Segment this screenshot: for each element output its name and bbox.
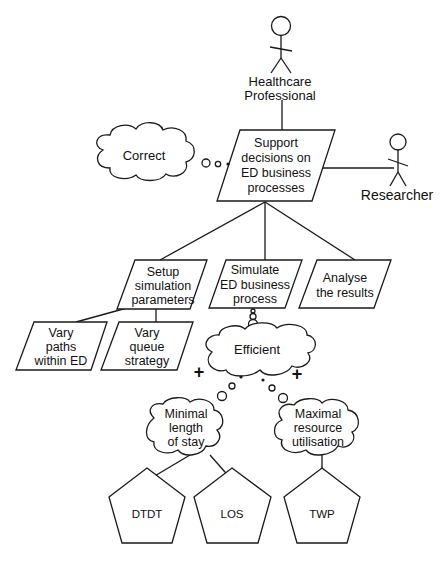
bubble-icon xyxy=(250,314,256,320)
softgoal-label: Efficient xyxy=(234,342,280,357)
goal-vary-paths[interactable]: Vary paths within ED xyxy=(16,322,107,370)
goal-label-line: Simulate xyxy=(231,263,280,277)
goal-label-line: Support xyxy=(254,136,298,150)
bubble-icon xyxy=(251,309,255,313)
actor-leg-left-icon xyxy=(271,58,281,73)
goal-label-line: processes xyxy=(248,181,305,195)
indicator-twp[interactable]: TWP xyxy=(284,468,360,543)
goal-vary-queue[interactable]: Vary queue strategy xyxy=(101,322,193,370)
bubble-icon xyxy=(218,392,227,401)
bubble-icon xyxy=(202,159,210,167)
pentagon-shape xyxy=(284,468,360,543)
bubble-dot-icon xyxy=(239,375,242,378)
goal-label-line: the results xyxy=(316,286,374,300)
softgoal-label-line: resource xyxy=(294,421,343,435)
indicator-dtdt[interactable]: DTDT xyxy=(109,468,185,543)
actor-label: Researcher xyxy=(361,187,434,203)
goal-label-line: ED business xyxy=(220,278,290,292)
pentagon-shape xyxy=(109,468,185,543)
indicator-label: TWP xyxy=(309,508,335,520)
softgoal-maximal-utilisation[interactable]: Maximal resource utilisation xyxy=(275,399,359,455)
indicator-los[interactable]: LOS xyxy=(194,468,271,543)
goal-analyse[interactable]: Analyse the results xyxy=(299,260,391,308)
actor-leg-right-icon xyxy=(398,172,406,186)
goal-label-line: Vary xyxy=(49,326,75,340)
actor-label-line2: Professional xyxy=(244,88,316,103)
softgoal-label-line: length xyxy=(169,421,203,435)
link-main-setup xyxy=(160,202,265,260)
contribution-plus-right: + xyxy=(292,364,303,384)
goal-label-line: parameters xyxy=(131,293,194,307)
efficient-children-bubbles xyxy=(218,383,288,403)
softgoal-label: Correct xyxy=(123,148,166,163)
actor-leg-left-icon xyxy=(390,172,398,186)
softgoal-label-line: Minimal xyxy=(164,407,207,421)
actor-label-line1: Healthcare xyxy=(249,74,312,89)
softgoal-label-line: utilisation xyxy=(292,435,344,449)
bubble-dot-icon xyxy=(261,378,264,381)
goal-label-line: decisions on xyxy=(241,151,311,165)
bubble-dot-icon xyxy=(226,162,229,165)
goal-label-line: simulation xyxy=(135,279,191,293)
goal-label-line: Setup xyxy=(147,265,180,279)
softgoal-label-line: of stay xyxy=(168,435,206,449)
bubble-icon xyxy=(215,161,220,166)
actor-healthcare-professional[interactable]: Healthcare Professional xyxy=(244,17,316,104)
goal-setup[interactable]: Setup simulation parameters xyxy=(117,260,207,309)
goal-label-line: strategy xyxy=(125,354,170,368)
indicator-label: LOS xyxy=(220,508,243,520)
goal-label-line: process xyxy=(233,292,277,306)
goal-label-line: ED business xyxy=(241,166,311,180)
bubble-icon xyxy=(229,383,235,389)
indicator-label: DTDT xyxy=(132,508,163,520)
actor-leg-right-icon xyxy=(281,58,291,73)
goal-label-line: within ED xyxy=(34,354,88,368)
actor-head-icon xyxy=(272,17,291,36)
goal-label-line: Analyse xyxy=(323,271,368,285)
link-main-analyse xyxy=(265,202,355,260)
goal-label-line: Vary xyxy=(135,326,161,340)
contribution-plus-left: + xyxy=(194,362,205,382)
bubble-icon xyxy=(279,394,288,403)
actor-head-icon xyxy=(390,134,406,150)
goal-label-line: queue xyxy=(130,340,165,354)
bubble-icon xyxy=(269,385,275,391)
goal-label-line: paths xyxy=(46,340,77,354)
goal-simulate[interactable]: Simulate ED business process xyxy=(209,260,302,308)
softgoal-correct[interactable]: Correct xyxy=(97,123,230,181)
goal-model-diagram: Healthcare Professional Researcher Suppo… xyxy=(0,0,446,561)
goal-main[interactable]: Support decisions on ED business process… xyxy=(217,130,335,201)
pentagon-shape xyxy=(194,468,271,543)
softgoal-label-line: Maximal xyxy=(295,407,342,421)
softgoal-minimal-los[interactable]: Minimal length of stay xyxy=(147,398,223,455)
